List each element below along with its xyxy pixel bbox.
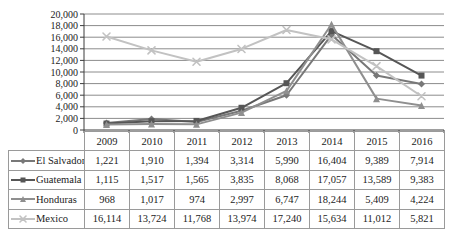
year-header-cell: 2011 — [175, 132, 220, 151]
value-cell: 968 — [85, 190, 130, 209]
chart-data-table: 20092010201120122013201420152016El Salva… — [8, 131, 445, 229]
series-name: Guatemala — [36, 174, 81, 185]
value-cell: 5,821 — [400, 209, 445, 228]
table-row-el-salvador: El Salvador1,2211,9101,3943,3145,99016,4… — [9, 151, 445, 170]
diamond-marker — [20, 158, 26, 164]
value-cell: 3,314 — [220, 151, 265, 170]
y-axis-tick-label: 20,000 — [51, 9, 79, 20]
value-cell: 1,221 — [85, 151, 130, 170]
x-marker — [373, 63, 380, 70]
value-cell: 13,589 — [355, 170, 400, 189]
year-header-cell: 2009 — [85, 132, 130, 151]
value-cell: 974 — [175, 190, 220, 209]
y-axis-tick-label: 16,000 — [51, 32, 79, 43]
value-cell: 5,409 — [355, 190, 400, 209]
value-cell: 11,768 — [175, 209, 220, 228]
x-marker — [418, 93, 425, 100]
year-header-cell: 2013 — [265, 132, 310, 151]
value-cell: 7,914 — [400, 151, 445, 170]
value-cell: 17,240 — [265, 209, 310, 228]
y-axis-tick-label: 4,000 — [56, 101, 79, 112]
series-name: Honduras — [36, 194, 77, 205]
value-cell: 3,835 — [220, 170, 265, 189]
square-marker — [284, 80, 290, 86]
y-axis-tick-label: 14,000 — [51, 43, 79, 54]
series-name: Mexico — [36, 213, 68, 224]
value-cell: 16,114 — [85, 209, 130, 228]
value-cell: 11,012 — [355, 209, 400, 228]
value-cell: 9,383 — [400, 170, 445, 189]
value-cell: 1,910 — [130, 151, 175, 170]
year-header-cell: 2010 — [130, 132, 175, 151]
triangle-series-legend-icon — [11, 194, 35, 204]
table-row-mexico: Mexico16,11413,72411,76813,97417,24015,6… — [9, 209, 445, 228]
value-cell: 1,565 — [175, 170, 220, 189]
y-axis-tick-label: 12,000 — [51, 55, 79, 66]
diamond-series-legend-icon — [11, 156, 35, 166]
diamond-marker — [418, 81, 425, 88]
y-axis-tick-label: 2,000 — [56, 113, 79, 124]
value-cell: 1,115 — [85, 170, 130, 189]
series-name: El Salvador — [36, 155, 85, 166]
y-axis-tick-label: 6,000 — [56, 90, 79, 101]
year-header-cell: 2014 — [310, 132, 355, 151]
y-axis-tick-label: 8,000 — [56, 78, 79, 89]
square-marker — [419, 73, 425, 79]
year-header-cell: 2016 — [400, 132, 445, 151]
blank-corner-cell — [9, 132, 85, 151]
table-row-guatemala: Guatemala1,1151,5171,5653,8358,06817,057… — [9, 170, 445, 189]
year-header-cell: 2015 — [355, 132, 400, 151]
series-line-guatemala — [107, 31, 422, 123]
value-cell: 1,394 — [175, 151, 220, 170]
value-cell: 16,404 — [310, 151, 355, 170]
series-label-cell: Honduras — [9, 190, 85, 209]
year-header-cell: 2012 — [220, 132, 265, 151]
series-legend: Guatemala — [9, 174, 84, 185]
series-legend: Mexico — [9, 213, 84, 224]
series-label-cell: El Salvador — [9, 151, 85, 170]
table-row-honduras: Honduras9681,0179742,9976,74718,2445,409… — [9, 190, 445, 209]
series-label-cell: Mexico — [9, 209, 85, 228]
square-series-legend-icon — [11, 175, 35, 185]
value-cell: 13,724 — [130, 209, 175, 228]
square-marker — [21, 177, 26, 182]
series-legend: Honduras — [9, 194, 84, 205]
x-series-legend-icon — [11, 214, 35, 224]
value-cell: 1,517 — [130, 170, 175, 189]
line-chart-figure: 02,0004,0006,0008,00010,00012,00014,0001… — [0, 0, 462, 231]
value-cell: 18,244 — [310, 190, 355, 209]
table-header-row: 20092010201120122013201420152016 — [9, 132, 445, 151]
square-marker — [374, 48, 380, 54]
y-axis-tick-label: 10,000 — [51, 67, 79, 78]
series-legend: El Salvador — [9, 155, 84, 166]
series-label-cell: Guatemala — [9, 170, 85, 189]
y-axis-tick-label: 18,000 — [51, 20, 79, 31]
value-cell: 5,990 — [265, 151, 310, 170]
value-cell: 8,068 — [265, 170, 310, 189]
value-cell: 2,997 — [220, 190, 265, 209]
value-cell: 17,057 — [310, 170, 355, 189]
value-cell: 6,747 — [265, 190, 310, 209]
value-cell: 4,224 — [400, 190, 445, 209]
value-cell: 1,017 — [130, 190, 175, 209]
value-cell: 15,634 — [310, 209, 355, 228]
value-cell: 9,389 — [355, 151, 400, 170]
triangle-marker — [328, 21, 335, 28]
value-cell: 13,974 — [220, 209, 265, 228]
